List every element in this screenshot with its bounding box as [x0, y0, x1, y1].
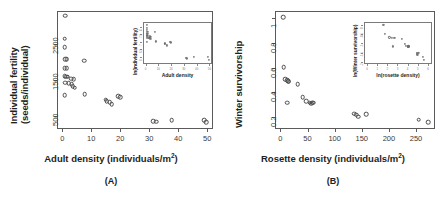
- x-axis-tick: [149, 129, 150, 132]
- data-point: [285, 100, 290, 105]
- x-axis-tick-label: 20: [116, 134, 124, 143]
- y-axis-tick-label: 7.5: [139, 34, 143, 38]
- figure-container: Individual fertility (seeds/individual) …: [0, 0, 444, 197]
- x-axis-tick: [408, 64, 409, 66]
- data-point: [286, 79, 291, 84]
- y-axis-tick: [272, 18, 275, 19]
- panel-a-inset-plot-area: [143, 22, 212, 64]
- x-axis-tick-label: 50: [303, 134, 311, 143]
- x-axis-tick: [418, 64, 419, 66]
- x-axis-tick: [389, 129, 390, 132]
- y-axis-tick-label: -1: [360, 45, 364, 48]
- panel-a-x-axis-title: Adult density (individuals/m2): [0, 152, 222, 164]
- x-axis-tick: [197, 64, 198, 66]
- data-point: [63, 13, 68, 18]
- x-axis-tick-label: 30: [182, 67, 185, 71]
- x-axis-tick-label: 30: [145, 134, 153, 143]
- x-axis-tick-label: 4: [407, 67, 409, 71]
- y-axis-tick-label: 0.6: [269, 67, 278, 77]
- x-axis-tick: [377, 64, 378, 66]
- x-axis-tick-label: 250: [410, 134, 423, 143]
- x-axis-tick-label: 0: [145, 67, 147, 71]
- data-point: [72, 85, 77, 90]
- x-axis-tick-label: 150: [356, 134, 369, 143]
- panel-a-y-title-line2: (seeds/individual): [19, 46, 30, 124]
- data-point: [281, 65, 286, 70]
- data-point: [64, 66, 69, 71]
- panel-b-inset-y-title: ln(Winter survivorship): [350, 25, 360, 77]
- panel-b-tag: (B): [222, 176, 444, 186]
- x-axis-tick-label: 40: [195, 67, 198, 71]
- y-axis-tick-label: 0.2: [269, 116, 278, 126]
- y-axis-tick-label: -2: [360, 64, 364, 67]
- x-axis-tick: [184, 64, 185, 66]
- panel-a-y-axis-subtitle: (seeds/individual): [20, 46, 31, 124]
- x-axis-tick: [397, 64, 398, 66]
- x-axis-tick: [209, 64, 210, 66]
- panel-b-inset-x-title: ln(rosette density): [364, 72, 432, 78]
- panel-a-x-title-text: Adult density (individuals/m: [44, 153, 171, 164]
- x-axis-tick: [280, 129, 281, 132]
- data-point: [356, 114, 361, 119]
- data-point: [416, 117, 421, 122]
- panel-b-x-axis-title: Rosette density (individuals/m2): [222, 152, 444, 164]
- data-point: [63, 36, 68, 41]
- y-axis-tick-label: 8: [139, 29, 143, 31]
- panel-a-x-title-tail: ): [175, 153, 178, 164]
- y-axis-tick-label: 1500: [51, 73, 60, 90]
- x-axis-tick-label: 2: [387, 67, 389, 71]
- y-axis-tick: [140, 42, 142, 43]
- data-point: [65, 57, 70, 62]
- data-point: [63, 93, 68, 98]
- data-point: [154, 119, 159, 124]
- panel-b-x-title-tail: ): [402, 153, 405, 164]
- panel-b-x-title-text: Rosette density (individuals/m: [261, 153, 398, 164]
- y-axis-tick-label: 0.8: [269, 43, 278, 53]
- x-axis-tick: [367, 64, 368, 66]
- x-axis-tick: [146, 64, 147, 66]
- panel-a: Individual fertility (seeds/individual) …: [0, 0, 222, 197]
- y-axis-tick-label: -0.5: [360, 33, 364, 38]
- x-axis-tick: [416, 129, 417, 132]
- data-point: [311, 100, 316, 105]
- x-axis-tick: [207, 129, 208, 132]
- x-axis-tick-label: 50: [208, 67, 211, 71]
- y-axis-tick-label: 1: [269, 24, 278, 28]
- y-axis-tick-label: 6.5: [139, 49, 143, 53]
- data-point: [109, 102, 114, 107]
- panel-b-inset: ln(Winter survivorship) 0123456-2-1.5-1-…: [346, 19, 438, 83]
- x-axis-tick-label: 3: [397, 67, 399, 71]
- x-axis-tick-label: 0: [278, 134, 282, 143]
- data-point: [83, 92, 88, 97]
- panel-b: Winter survivorship 0501001502002500.20.…: [222, 0, 444, 197]
- x-axis-tick-label: 5: [417, 67, 419, 71]
- data-point: [82, 58, 87, 63]
- x-axis-tick-label: 6: [427, 67, 429, 71]
- panel-a-y-axis-title: Individual fertility: [9, 47, 20, 124]
- x-axis-tick-label: 40: [174, 134, 182, 143]
- x-axis-tick-label: 0: [60, 134, 64, 143]
- data-point: [281, 15, 286, 20]
- data-point: [63, 45, 68, 50]
- x-axis-tick: [120, 129, 121, 132]
- y-axis-tick: [361, 25, 363, 26]
- x-axis-tick: [91, 129, 92, 132]
- y-axis-tick-label: 6: [139, 59, 143, 61]
- x-axis-tick-label: 10: [157, 67, 160, 71]
- y-axis-tick-label: -1.5: [360, 52, 364, 57]
- x-axis-tick-label: 0: [366, 67, 368, 71]
- x-axis-tick-label: 50: [203, 134, 211, 143]
- y-axis-tick-label: 0: [360, 27, 364, 29]
- x-axis-tick: [308, 129, 309, 132]
- y-axis-tick-label: 2500: [51, 37, 60, 54]
- y-axis-tick-label: 0.4: [269, 92, 278, 102]
- data-point: [364, 112, 369, 117]
- x-axis-tick: [62, 129, 63, 132]
- data-point: [295, 82, 300, 87]
- panel-b-y-axis-title: Winter survivorship: [234, 41, 244, 128]
- x-axis-tick: [171, 64, 172, 66]
- panel-a-inset: ln(individual fertility) 0102030405066.5…: [126, 19, 216, 81]
- panel-a-inset-x-title: Adult density: [143, 72, 212, 78]
- x-axis-tick-label: 10: [87, 134, 95, 143]
- panel-a-y-title-line1: Individual fertility: [8, 47, 19, 124]
